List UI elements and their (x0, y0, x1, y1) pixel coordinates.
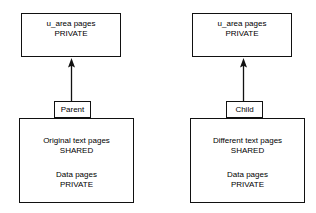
child-connector-label: Child (235, 105, 253, 114)
parent-uarea-line-1: u_area pages (47, 19, 96, 29)
child-uarea-line-1: u_area pages (218, 19, 267, 29)
child-uarea-box: u_area pages PRIVATE (192, 13, 292, 57)
parent-data-pages-line: Data pages (56, 170, 97, 180)
parent-text-pages-line: Original text pages (43, 136, 110, 146)
parent-pages-box: Original text pages SHARED Data pages PR… (19, 118, 134, 203)
parent-uarea-box: u_area pages PRIVATE (21, 13, 121, 57)
parent-connector-label-box: Parent (54, 101, 91, 118)
child-data-pages-mode: PRIVATE (231, 180, 264, 190)
parent-text-pages-mode: SHARED (60, 146, 93, 156)
child-data-pages-line: Data pages (227, 170, 268, 180)
child-connector-label-box: Child (226, 101, 263, 118)
child-arrow-up (232, 57, 257, 103)
parent-data-pages-mode: PRIVATE (60, 180, 93, 190)
parent-arrow-up (60, 57, 85, 103)
child-text-pages-mode: SHARED (231, 146, 264, 156)
diagram-canvas: u_area pages PRIVATE Parent Original tex… (0, 0, 316, 213)
child-uarea-line-2: PRIVATE (225, 29, 258, 39)
child-text-pages-line: Different text pages (213, 136, 282, 146)
parent-uarea-line-2: PRIVATE (54, 29, 87, 39)
child-pages-box: Different text pages SHARED Data pages P… (190, 118, 305, 203)
parent-connector-label: Parent (61, 105, 85, 114)
